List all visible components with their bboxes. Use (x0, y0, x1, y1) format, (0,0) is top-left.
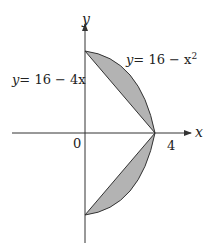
y-axis-label: y (81, 11, 91, 27)
line-equation-label: y= 16 − 4x (11, 72, 86, 87)
parabola-equation-label: y= 16 − x2 (125, 51, 197, 67)
origin-label: 0 (73, 136, 81, 151)
x-axis-label: x (195, 124, 203, 140)
lower-shaded-region (85, 133, 155, 215)
x-tick-label-4: 4 (167, 138, 175, 153)
diagram-canvas: y x 0 4 y= 16 − x2 y= 16 − 4x (0, 0, 212, 250)
